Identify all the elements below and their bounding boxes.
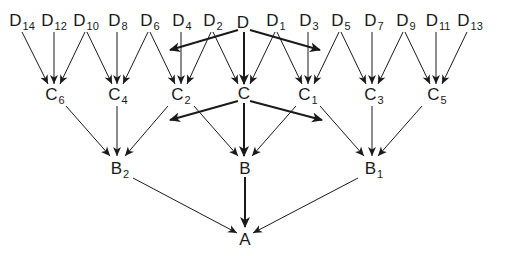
node-letter: D [172,11,184,30]
node-letter: D [299,11,311,30]
node-letter: C [427,85,439,104]
node-letter: D [396,11,408,30]
arrow-edge-d14-c6 [22,32,48,84]
node-subscript: 2 [123,168,129,180]
arrow-edge-d6-c4 [123,32,148,84]
arrow-edge-d1-c1 [277,32,302,84]
node-d13: D13 [457,12,483,32]
node-d2: D2 [203,12,222,32]
node-subscript: 5 [345,20,351,32]
arrow-edge-d5-c1 [314,32,339,84]
node-a: A [239,231,250,248]
node-letter: C [298,85,310,104]
node-subscript: 1 [377,168,383,180]
arrow-edge-d13-c5 [442,32,467,84]
node-letter: D [9,11,21,30]
arrow-edge-b1-a [253,178,358,233]
node-letter: C [364,85,376,104]
node-letter: C [45,85,57,104]
arrow-edge-c2-b [194,106,238,156]
node-subscript: 3 [378,94,384,106]
node-d9: D9 [396,12,415,32]
node-letter: D [203,11,215,30]
arrow-edge-d-right [250,30,320,50]
node-b2: B2 [111,160,129,180]
node-subscript: 1 [312,94,318,106]
node-letter: C [108,85,120,104]
node-letter: B [365,159,376,178]
arrow-edge-d1-c [250,32,275,84]
node-c4: C4 [108,86,127,106]
node-letter: D [140,11,152,30]
node-subscript: 5 [441,94,447,106]
node-subscript: 6 [154,20,160,32]
node-d11: D11 [426,12,451,32]
node-letter: D [108,11,120,30]
node-c3: C3 [364,86,383,106]
node-c6: C6 [45,86,64,106]
node-letter: C [171,85,183,104]
node-letter: B [239,159,250,178]
arrow-edge-c2-b2 [125,106,168,156]
node-c1: C1 [298,86,317,106]
arrow-edge-c5-b1 [378,106,422,156]
node-subscript: 11 [439,20,450,32]
node-subscript: 14 [23,20,35,32]
node-d14: D14 [9,12,35,32]
node-d10: D10 [73,12,99,32]
node-c: C [238,85,250,102]
node-d: D [237,14,249,31]
arrow-edge-d10-c6 [60,32,85,84]
node-subscript: 8 [122,20,128,32]
node-letter: D [73,11,85,30]
node-letter: D [426,11,438,30]
node-d8: D8 [108,12,127,32]
node-subscript: 2 [185,94,191,106]
node-b1: B1 [365,160,383,180]
node-d3: D3 [299,12,318,32]
arrow-edge-d5-c3 [341,32,366,84]
node-c2: C2 [171,86,190,106]
node-b: B [239,160,250,177]
node-d7: D7 [364,12,383,32]
node-subscript: 3 [313,20,319,32]
edges-layer [0,0,507,256]
edge-group [22,30,467,233]
arrow-edge-c6-b2 [66,106,110,156]
node-subscript: 12 [55,20,67,32]
arrow-edge-c1-b1 [320,106,364,156]
node-d1: D1 [266,12,285,32]
node-subscript: 4 [186,20,192,32]
node-d12: D12 [41,12,67,32]
node-letter: C [238,84,250,103]
arrow-edge-c1-b [252,106,296,156]
arrow-edge-d9-c3 [378,32,403,84]
node-d6: D6 [140,12,159,32]
node-letter: D [331,11,343,30]
node-subscript: 10 [87,20,99,32]
node-letter: D [41,11,53,30]
node-c5: C5 [427,86,446,106]
node-subscript: 1 [280,20,286,32]
node-letter: D [364,11,376,30]
node-letter: B [111,159,122,178]
node-subscript: 7 [378,20,384,32]
node-subscript: 13 [471,20,483,32]
arrow-edge-d10-c4 [87,32,112,84]
node-subscript: 4 [122,94,128,106]
hierarchy-diagram: D14D12D10D8D6D4D2DD1D3D5D7D9D11D13C6C4C2… [0,0,507,256]
node-letter: D [237,13,249,32]
node-subscript: 6 [59,94,65,106]
node-letter: A [239,230,250,249]
node-subscript: 2 [217,20,223,32]
node-d4: D4 [172,12,191,32]
node-letter: D [266,11,278,30]
arrow-edge-d2-c [213,32,238,84]
arrow-edge-b2-a [133,178,237,233]
node-letter: D [457,11,469,30]
arrow-edge-d6-c2 [150,32,175,84]
arrow-edge-d9-c5 [405,32,430,84]
node-subscript: 9 [410,20,416,32]
node-d5: D5 [331,12,350,32]
